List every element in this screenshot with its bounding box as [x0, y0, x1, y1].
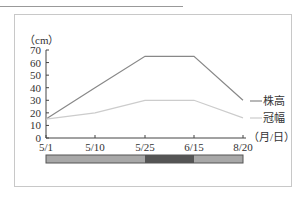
- phase-segment: [46, 155, 145, 163]
- x-tick-label: 6/15: [184, 141, 204, 153]
- x-tick-label: 5/1: [39, 141, 53, 153]
- line-chart: （cm） 010203040506070 5/15/105/256/158/20…: [0, 0, 305, 198]
- series-line: [46, 100, 243, 119]
- phase-segment: [194, 155, 243, 163]
- x-tick-label: 5/25: [135, 141, 155, 153]
- phase-segment: [145, 155, 194, 163]
- x-tick-label: 5/10: [85, 141, 105, 153]
- x-axis-label: （月/日）: [248, 131, 295, 143]
- y-tick-label: 70: [30, 44, 42, 56]
- y-tick-label: 20: [30, 107, 42, 119]
- series-lines: [46, 56, 243, 119]
- series-line: [46, 56, 243, 119]
- legend-label: 冠幅: [263, 112, 285, 124]
- y-tick-label: 30: [30, 94, 42, 106]
- y-tick-label: 50: [30, 69, 42, 81]
- y-tick-label: 60: [30, 57, 42, 69]
- phase-bar: [46, 155, 243, 163]
- legend: 株高冠幅: [250, 94, 285, 124]
- legend-label: 株高: [263, 94, 285, 107]
- y-tick-label: 40: [30, 82, 42, 94]
- x-axis: 5/15/105/256/158/20: [39, 135, 253, 153]
- y-tick-label: 10: [30, 119, 42, 131]
- y-axis: 010203040506070: [30, 44, 49, 144]
